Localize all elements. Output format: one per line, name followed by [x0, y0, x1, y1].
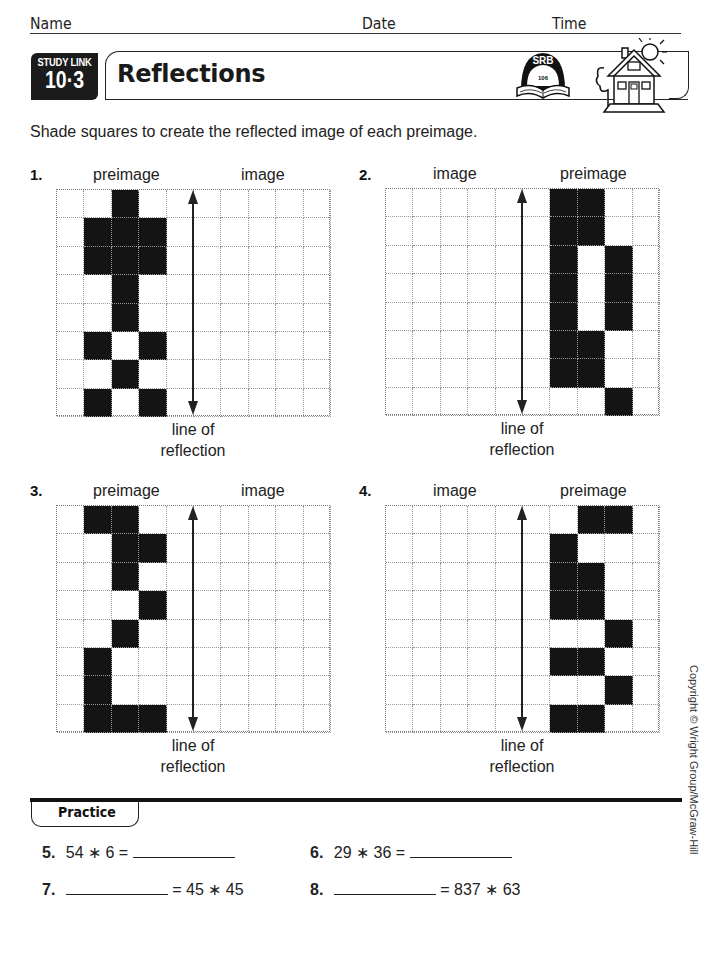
grid-cell[interactable]: [249, 534, 276, 562]
grid-cell-shaded[interactable]: [605, 676, 632, 704]
grid-cell[interactable]: [139, 304, 166, 332]
grid-cell[interactable]: [304, 190, 331, 218]
grid-cell[interactable]: [523, 388, 550, 416]
grid-cell[interactable]: [523, 189, 550, 217]
grid-cell-shaded[interactable]: [84, 676, 111, 704]
grid-cell[interactable]: [496, 620, 523, 648]
grid-cell[interactable]: [578, 676, 605, 704]
answer-blank-5[interactable]: [133, 844, 235, 858]
grid-cell[interactable]: [496, 648, 523, 676]
grid-cell[interactable]: [633, 506, 660, 534]
grid-cell-shaded[interactable]: [84, 506, 111, 534]
grid-cell[interactable]: [194, 648, 221, 676]
grid-cell[interactable]: [633, 705, 660, 733]
grid-cell[interactable]: [413, 506, 440, 534]
answer-blank-6[interactable]: [410, 844, 512, 858]
grid-cell[interactable]: [633, 189, 660, 217]
grid-cell-shaded[interactable]: [112, 190, 139, 218]
grid-cell[interactable]: [304, 389, 331, 417]
grid-cell[interactable]: [304, 304, 331, 332]
grid-cell-shaded[interactable]: [578, 648, 605, 676]
grid-cell[interactable]: [57, 332, 84, 360]
grid-cell-shaded[interactable]: [112, 563, 139, 591]
grid-cell[interactable]: [413, 705, 440, 733]
grid-cell[interactable]: [441, 506, 468, 534]
grid-cell[interactable]: [468, 534, 495, 562]
grid-cell[interactable]: [468, 274, 495, 302]
grid-cell[interactable]: [221, 648, 248, 676]
grid-cell[interactable]: [221, 190, 248, 218]
grid-cell[interactable]: [84, 190, 111, 218]
grid-cell[interactable]: [386, 534, 413, 562]
grid-cell[interactable]: [84, 304, 111, 332]
grid-cell[interactable]: [139, 360, 166, 388]
grid-cell[interactable]: [386, 705, 413, 733]
grid-cell[interactable]: [139, 190, 166, 218]
grid-cell-shaded[interactable]: [84, 705, 111, 733]
grid-cell[interactable]: [468, 620, 495, 648]
grid-cell[interactable]: [194, 563, 221, 591]
grid-cell[interactable]: [578, 388, 605, 416]
grid-cell[interactable]: [441, 331, 468, 359]
grid-cell[interactable]: [523, 534, 550, 562]
grid-cell[interactable]: [413, 648, 440, 676]
grid-cell[interactable]: [194, 360, 221, 388]
grid-cell-shaded[interactable]: [139, 591, 166, 619]
grid-cell[interactable]: [386, 506, 413, 534]
grid-cell[interactable]: [605, 563, 632, 591]
grid-cell-shaded[interactable]: [550, 246, 577, 274]
grid-cell[interactable]: [139, 563, 166, 591]
grid-cell-shaded[interactable]: [112, 218, 139, 246]
grid-cell[interactable]: [468, 246, 495, 274]
grid-cell[interactable]: [84, 360, 111, 388]
grid-cell[interactable]: [413, 274, 440, 302]
grid-cell[interactable]: [194, 275, 221, 303]
grid-cell[interactable]: [441, 359, 468, 387]
grid-cell[interactable]: [276, 332, 303, 360]
grid-cell[interactable]: [304, 275, 331, 303]
grid-cell[interactable]: [194, 620, 221, 648]
grid-cell[interactable]: [523, 274, 550, 302]
grid-cell-shaded[interactable]: [112, 275, 139, 303]
grid-cell[interactable]: [441, 217, 468, 245]
grid-cell[interactable]: [304, 563, 331, 591]
grid-cell[interactable]: [139, 648, 166, 676]
grid-cell[interactable]: [441, 620, 468, 648]
grid-cell[interactable]: [413, 303, 440, 331]
grid-cell[interactable]: [441, 705, 468, 733]
grid-cell[interactable]: [304, 534, 331, 562]
grid-cell[interactable]: [468, 705, 495, 733]
grid-cell[interactable]: [194, 705, 221, 733]
grid-cell[interactable]: [167, 591, 194, 619]
grid-cell[interactable]: [441, 246, 468, 274]
grid-cell-shaded[interactable]: [550, 563, 577, 591]
grid-cell[interactable]: [276, 648, 303, 676]
grid-cell[interactable]: [194, 190, 221, 218]
grid-cell[interactable]: [276, 275, 303, 303]
grid-cell[interactable]: [167, 676, 194, 704]
grid-cell-shaded[interactable]: [550, 591, 577, 619]
grid-cell[interactable]: [550, 620, 577, 648]
grid-cell[interactable]: [194, 332, 221, 360]
grid-cell[interactable]: [276, 360, 303, 388]
grid-cell[interactable]: [167, 360, 194, 388]
grid-cell[interactable]: [413, 563, 440, 591]
grid-cell-shaded[interactable]: [550, 274, 577, 302]
grid-cell-shaded[interactable]: [84, 218, 111, 246]
grid-cell[interactable]: [605, 534, 632, 562]
grid-cell[interactable]: [221, 705, 248, 733]
grid-cell[interactable]: [84, 563, 111, 591]
grid-cell[interactable]: [386, 274, 413, 302]
grid-cell[interactable]: [413, 359, 440, 387]
grid-cell[interactable]: [249, 676, 276, 704]
grid-cell[interactable]: [221, 218, 248, 246]
grid-cell[interactable]: [57, 563, 84, 591]
grid-cell[interactable]: [605, 705, 632, 733]
grid-cell[interactable]: [276, 676, 303, 704]
grid-cell[interactable]: [468, 676, 495, 704]
grid-cell[interactable]: [633, 359, 660, 387]
grid-cell-shaded[interactable]: [578, 705, 605, 733]
grid-cell[interactable]: [578, 620, 605, 648]
grid-cell[interactable]: [112, 676, 139, 704]
grid-cell[interactable]: [386, 359, 413, 387]
